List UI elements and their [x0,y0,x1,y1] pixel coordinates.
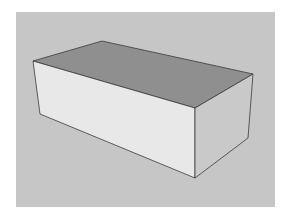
box-model[interactable] [0,0,288,224]
